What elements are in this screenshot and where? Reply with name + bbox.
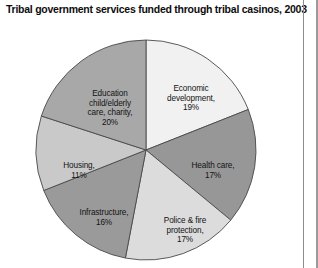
pie-chart-figure: Tribal government services funded throug…: [0, 0, 318, 268]
page-title: Tribal government services funded throug…: [6, 3, 306, 16]
slice-label-infrastructure: Infrastructure, 16%: [64, 208, 144, 227]
page-gutter-rule: [303, 0, 304, 268]
slice-label-health-care: Health care, 17%: [182, 161, 244, 180]
plot-area: Economic development, 19% Health care, 1…: [6, 20, 298, 268]
slice-label-police-fire-protection: Police & fire protection, 17%: [145, 216, 225, 245]
slice-label-education-child-elderly-care-charity: Education child/elderly care, charity, 2…: [72, 89, 148, 127]
page-edge-rule: [316, 0, 318, 268]
slice-label-economic-development: Economic development, 19%: [152, 84, 230, 113]
slice-label-housing: Housing, 11%: [48, 161, 110, 180]
